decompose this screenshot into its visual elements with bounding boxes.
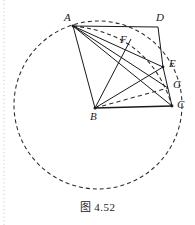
- figure-caption: 图 4.52: [0, 198, 195, 214]
- point-label-A: A: [64, 12, 71, 23]
- point-label-D: D: [156, 12, 164, 23]
- point-label-F: F: [120, 34, 127, 45]
- segment-AD: [73, 26, 158, 27]
- point-label-E: E: [169, 58, 176, 69]
- vertex-dot-A: [72, 25, 75, 28]
- point-label-C: C: [177, 99, 184, 110]
- geometry-drawing: [0, 0, 195, 225]
- vertex-dot-E: [162, 66, 165, 69]
- segment-BC: [95, 106, 172, 108]
- point-label-G: G: [173, 79, 181, 90]
- point-label-B: B: [90, 111, 97, 122]
- segment-BG: [95, 88, 168, 108]
- figure-container: A D F E G C B 图 4.52: [0, 0, 195, 225]
- segment-AE: [73, 26, 163, 67]
- vertex-dot-C: [171, 105, 174, 108]
